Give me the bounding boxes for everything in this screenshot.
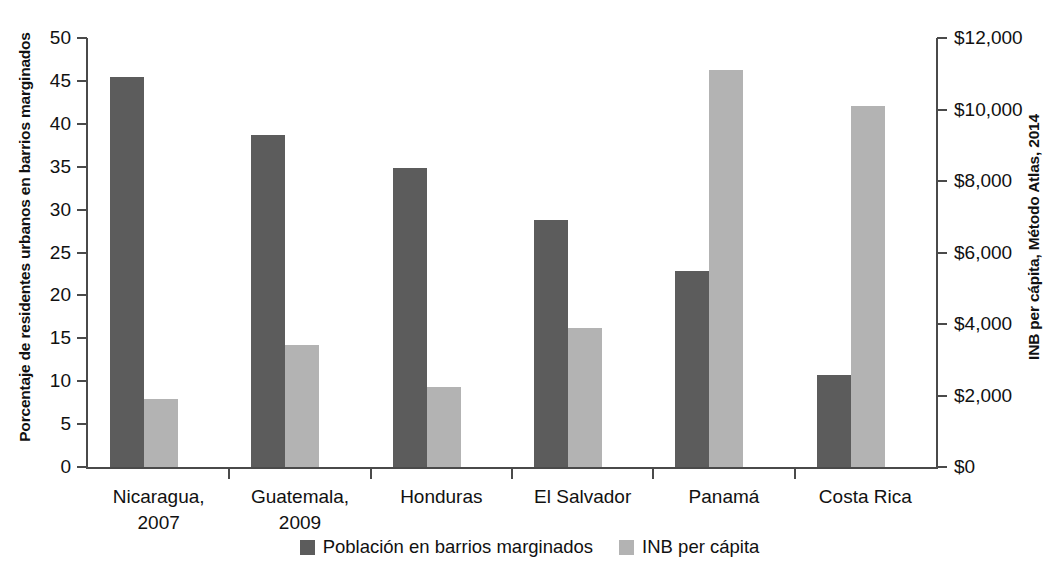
right-tick-mark [937, 466, 947, 468]
right-tick-mark [937, 180, 947, 182]
right-tick-mark [937, 323, 947, 325]
bar-inb-per-capita [285, 345, 319, 467]
bar-group [653, 38, 794, 467]
left-tick-mark [77, 252, 87, 254]
left-tick-mark [77, 423, 87, 425]
bar-group [795, 38, 936, 467]
bar-inb-per-capita [709, 70, 743, 467]
category-label-line: Costa Rica [775, 484, 955, 510]
right-tick-label: $8,000 [954, 171, 1012, 190]
legend-swatch-icon [619, 540, 634, 555]
left-tick-label: 40 [50, 114, 71, 133]
bar-poblacion-barrios-marginados [534, 220, 568, 467]
right-tick-mark [937, 37, 947, 39]
bar-poblacion-barrios-marginados [675, 271, 709, 467]
bar-group [88, 38, 229, 467]
x-tick-mark [370, 468, 372, 479]
right-tick-label: $4,000 [954, 314, 1012, 333]
left-tick-mark [77, 380, 87, 382]
left-tick-label: 50 [50, 28, 71, 47]
left-tick-label: 45 [50, 71, 71, 90]
plot-area: 05101520253035404550 $0$2,000$4,000$6,00… [88, 38, 936, 467]
left-tick-label: 20 [50, 285, 71, 304]
bar-group [512, 38, 653, 467]
x-tick-mark [652, 468, 654, 479]
left-tick-mark [77, 294, 87, 296]
left-tick-label: 25 [50, 243, 71, 262]
right-tick-label: $10,000 [954, 100, 1023, 119]
left-tick-label: 15 [50, 328, 71, 347]
bar-group [229, 38, 370, 467]
category-label-line: 2009 [210, 510, 390, 536]
left-tick-mark [77, 466, 87, 468]
left-tick-mark [77, 166, 87, 168]
left-tick-label: 35 [50, 157, 71, 176]
left-tick-mark [77, 209, 87, 211]
left-axis-title: Porcentaje de residentes urbanos en barr… [16, 7, 34, 467]
right-axis-title: INB per cápita, Método Atlas, 2014 [1025, 7, 1043, 467]
right-tick-label: $12,000 [954, 28, 1023, 47]
right-tick-mark [937, 109, 947, 111]
right-tick-label: $6,000 [954, 243, 1012, 262]
left-tick-label: 10 [50, 371, 71, 390]
bar-poblacion-barrios-marginados [817, 375, 851, 467]
category-label: Costa Rica [775, 484, 955, 510]
right-tick-mark [937, 252, 947, 254]
legend-label: Población en barrios marginados [323, 536, 593, 558]
left-tick-label: 30 [50, 200, 71, 219]
bar-poblacion-barrios-marginados [251, 135, 285, 467]
legend-label: INB per cápita [642, 536, 759, 558]
x-tick-mark [511, 468, 513, 479]
left-tick-label: 5 [60, 414, 71, 433]
right-tick-label: $2,000 [954, 386, 1012, 405]
legend-item: INB per cápita [619, 536, 759, 558]
left-tick-mark [77, 37, 87, 39]
legend-item: Población en barrios marginados [300, 536, 593, 558]
right-tick-label: $0 [954, 457, 975, 476]
x-tick-mark [228, 468, 230, 479]
bar-poblacion-barrios-marginados [393, 168, 427, 467]
bar-poblacion-barrios-marginados [110, 77, 144, 467]
left-tick-label: 0 [60, 457, 71, 476]
bar-inb-per-capita [144, 399, 178, 467]
left-tick-mark [77, 337, 87, 339]
legend-swatch-icon [300, 540, 315, 555]
bar-inb-per-capita [427, 387, 461, 467]
bar-group [371, 38, 512, 467]
left-tick-mark [77, 123, 87, 125]
x-tick-mark [794, 468, 796, 479]
left-tick-mark [77, 80, 87, 82]
bar-inb-per-capita [568, 328, 602, 467]
right-tick-mark [937, 395, 947, 397]
chart-legend: Población en barrios marginadosINB per c… [0, 536, 1059, 558]
bar-chart-figure: Porcentaje de residentes urbanos en barr… [0, 0, 1059, 572]
bar-inb-per-capita [851, 106, 885, 467]
